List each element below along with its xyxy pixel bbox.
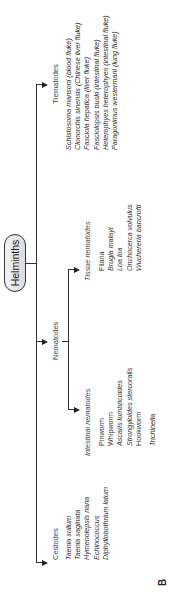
list-item: Schistosoma mansoni (blood fluke) (64, 15, 73, 150)
list-item: Brugia malayi (106, 204, 115, 271)
tissue-nematodes-list: Filaria Brugia malayi Loa loa Onchocerca… (97, 204, 143, 271)
list-item: Paragonimus westermani (lung fluke) (110, 15, 119, 150)
list-item: Diphyllobothrium latum (101, 487, 110, 560)
trematodes-list: Schistosoma mansoni (blood fluke) Clonor… (64, 15, 119, 150)
nematodes-sub-branch-line (68, 269, 69, 410)
list-item: Hymenolepsis nana (82, 487, 91, 560)
root-connector (26, 263, 36, 264)
list-item: Wuchereria bancrofti (134, 204, 143, 271)
list-item: Filaria (97, 204, 106, 271)
helminths-classification-diagram: Helminths Cestodes Taenia solium Taenia … (0, 0, 180, 616)
root-node-label: Helminths (9, 240, 21, 287)
list-item: Fasciola hepatica (liver fluke) (82, 15, 91, 150)
list-item: Taenia saginata (73, 487, 82, 560)
trematodes-arrow-icon (42, 82, 48, 88)
root-node-helminths: Helminths (4, 234, 26, 292)
nematodes-title: Nematodes (51, 322, 60, 360)
cestodes-title: Cestodes (51, 528, 60, 560)
nematodes-arrow-icon (42, 339, 48, 345)
list-item: Onchocerca volvulus (125, 204, 134, 271)
list-item: Heterophyes heterophyes (intestinal fluk… (101, 15, 110, 150)
figure-label: B (157, 579, 168, 586)
list-item: Taenia solium (64, 487, 73, 560)
intestinal-arrow-icon (74, 407, 80, 413)
intestinal-nematodes-list: Pinworm Whipworm Ascaris lumbricoides St… (97, 368, 157, 446)
intestinal-nematodes-title: Intestinal nematodes (83, 389, 92, 456)
list-item: Echinococcus (92, 487, 101, 560)
cestodes-arrow-icon (42, 560, 48, 566)
list-item: Trichinella (148, 368, 157, 446)
list-item: Loa loa (115, 204, 124, 271)
list-item: Pinworm (97, 368, 106, 446)
list-item: Clonorchis sinensis (Chinese liver fluke… (73, 15, 82, 150)
list-item: Fasciolopsis buski (intestinal fluke) (92, 15, 101, 150)
list-item: Hookworm (134, 368, 143, 446)
list-item: Strongyloides stercoralis (125, 368, 134, 446)
list-item: Whipworm (106, 368, 115, 446)
tissue-nematodes-title: Tissue nematodes (83, 221, 92, 281)
main-branch-line (36, 84, 37, 563)
trematodes-title: Trematodes (51, 64, 60, 104)
cestodes-list: Taenia solium Taenia saginata Hymenoleps… (64, 487, 110, 560)
list-item: Ascaris lumbricoides (115, 368, 124, 446)
tissue-arrow-icon (74, 267, 80, 273)
